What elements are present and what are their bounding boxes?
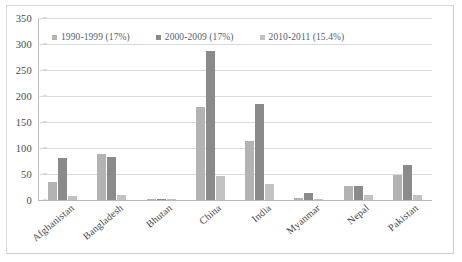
legend-label: 2000-2009 (17%) bbox=[165, 32, 234, 42]
y-axis-tick-label: 250 bbox=[16, 65, 32, 76]
legend-swatch-icon bbox=[52, 35, 57, 40]
bar bbox=[196, 107, 205, 200]
y-axis-tick-label: 50 bbox=[21, 169, 32, 180]
legend-item: 1990-1999 (17%) bbox=[52, 32, 130, 42]
bar-group bbox=[38, 18, 87, 200]
bar bbox=[294, 198, 303, 200]
bar-group bbox=[383, 18, 432, 200]
bar bbox=[107, 157, 116, 200]
legend-item: 2000-2009 (17%) bbox=[156, 32, 234, 42]
bar bbox=[403, 165, 412, 200]
bar-group bbox=[186, 18, 235, 200]
x-axis-category-labels: AfghanistanBangladeshBhutanChinaIndiaMya… bbox=[38, 202, 432, 258]
bar bbox=[265, 184, 274, 200]
bar bbox=[314, 199, 323, 200]
y-axis-tick-label: 300 bbox=[16, 39, 32, 50]
legend-swatch-icon bbox=[260, 35, 265, 40]
bar bbox=[364, 195, 373, 200]
bar bbox=[255, 104, 264, 200]
y-axis-tick-label: 150 bbox=[16, 117, 32, 128]
bar bbox=[354, 186, 363, 200]
legend-label: 2010-2011 (15.4%) bbox=[269, 32, 345, 42]
bar-group bbox=[334, 18, 383, 200]
x-axis-category-label: India bbox=[249, 202, 273, 224]
chart-figure: 050100150200250300350 1990-1999 (17%)200… bbox=[0, 0, 462, 262]
bar bbox=[245, 141, 254, 200]
bar bbox=[147, 199, 156, 200]
bar bbox=[58, 158, 67, 200]
bar bbox=[97, 154, 106, 200]
gridline bbox=[38, 200, 432, 201]
y-axis-tick-label: 350 bbox=[16, 13, 32, 24]
x-axis-category-label: Pakistan bbox=[386, 202, 420, 233]
bar bbox=[68, 196, 77, 200]
bar bbox=[157, 199, 166, 200]
y-axis-tick-labels: 050100150200250300350 bbox=[6, 18, 36, 200]
bar bbox=[304, 193, 313, 200]
x-axis-category-label: Nepal bbox=[345, 202, 371, 226]
legend-item: 2010-2011 (15.4%) bbox=[260, 32, 345, 42]
bar bbox=[344, 186, 353, 200]
y-axis-tick-label: 0 bbox=[27, 195, 32, 206]
x-axis-category-label: Afghanistan bbox=[29, 202, 75, 243]
bar bbox=[117, 195, 126, 200]
bar-group bbox=[137, 18, 186, 200]
x-axis-category-label: Bangladesh bbox=[81, 202, 125, 242]
bar bbox=[216, 176, 225, 200]
y-axis-tick-label: 100 bbox=[16, 143, 32, 154]
x-axis-category-label: Bhutan bbox=[144, 202, 174, 230]
bars-layer bbox=[38, 18, 432, 200]
bar-group bbox=[235, 18, 284, 200]
legend-swatch-icon bbox=[156, 35, 161, 40]
bar bbox=[393, 175, 402, 200]
x-axis-category-label: Myanmar bbox=[284, 202, 322, 236]
chart-legend: 1990-1999 (17%)2000-2009 (17%)2010-2011 … bbox=[52, 32, 344, 42]
x-axis-category-label: China bbox=[197, 202, 223, 226]
bar bbox=[167, 199, 176, 200]
bar bbox=[48, 182, 57, 200]
bar bbox=[206, 51, 215, 200]
bar-group bbox=[284, 18, 333, 200]
bar-group bbox=[87, 18, 136, 200]
bar bbox=[413, 195, 422, 200]
legend-label: 1990-1999 (17%) bbox=[61, 32, 130, 42]
y-axis-tick-label: 200 bbox=[16, 91, 32, 102]
